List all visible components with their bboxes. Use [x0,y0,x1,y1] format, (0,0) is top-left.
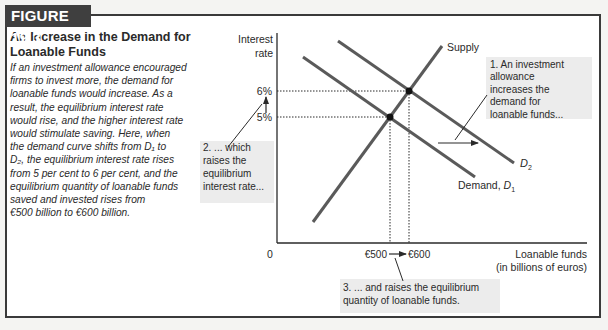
figure-label: FIGURE 19.3 [5,5,91,27]
loanable-funds-chart: Interest rate 6% 5% 0 €500 €600 Loanable… [0,0,608,330]
y-axis-label-line1: Interest [238,33,273,45]
x-tick-500: €500 [365,249,388,260]
supply-curve [313,46,442,222]
x-axis-label-line2: (in billions of euros) [496,261,587,273]
equilibrium-point-2 [406,88,413,95]
origin-label: 0 [267,248,273,260]
y-axis-label-line2: rate [255,47,273,59]
demand1-label: Demand, D1 [458,179,515,193]
supply-label: Supply [447,41,480,53]
demand2-label: D2 [520,157,532,171]
note-3-pointer [395,258,403,281]
x-axis-label-line1: Loanable funds [515,248,587,260]
y-tick-6pct: 6% [257,85,272,97]
equilibrium-point-1 [387,114,394,121]
y-tick-5pct: 5% [257,111,272,123]
x-tick-600: €600 [408,249,431,260]
